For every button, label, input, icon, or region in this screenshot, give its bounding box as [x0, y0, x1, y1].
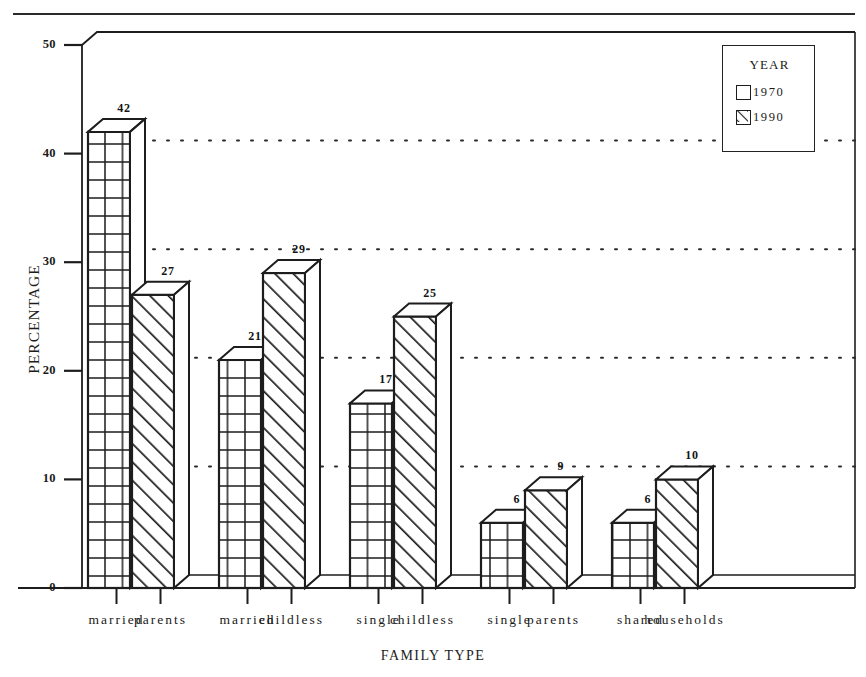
bar-value-label: 29 — [279, 242, 319, 257]
legend-box: YEAR 1970 1990 — [722, 45, 815, 152]
x-axis-tick-label: households — [615, 612, 755, 628]
legend-title: YEAR — [723, 57, 816, 73]
legend-label-1990: 1990 — [753, 110, 784, 125]
legend-swatch-1990 — [736, 110, 751, 125]
bar-value-label: 6 — [497, 492, 537, 507]
y-axis-tick-label: 10 — [26, 471, 56, 486]
y-axis-tick-label: 0 — [26, 580, 56, 595]
bar-value-label: 25 — [410, 286, 450, 301]
bar-value-label: 17 — [366, 372, 406, 387]
legend-entry-1990: 1990 — [736, 108, 784, 126]
bar-series-group — [88, 119, 713, 588]
gridlines — [97, 141, 855, 467]
legend-entry-1970: 1970 — [736, 83, 784, 101]
y-axis-tick-label: 20 — [26, 363, 56, 378]
bar-value-label: 6 — [628, 492, 668, 507]
bar-chart-figure: PERCENTAGE FAMILY TYPE 01020304050 marri… — [0, 0, 866, 677]
bar-value-label: 10 — [672, 448, 712, 463]
legend-swatch-1970 — [736, 85, 751, 100]
bar-value-label: 9 — [541, 459, 581, 474]
legend-label-1970: 1970 — [753, 85, 784, 100]
bar-value-label: 42 — [104, 101, 144, 116]
bar-value-label: 21 — [235, 329, 275, 344]
y-axis-tick-label: 40 — [26, 146, 56, 161]
y-axis-tick-label: 50 — [26, 37, 56, 52]
x-axis-title: FAMILY TYPE — [0, 648, 866, 664]
y-axis-tick-label: 30 — [26, 254, 56, 269]
bar-value-label: 27 — [148, 264, 188, 279]
